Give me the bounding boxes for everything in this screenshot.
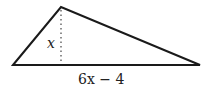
triangle	[13, 7, 200, 65]
base-label: 6x − 4	[78, 71, 124, 87]
triangle-diagram: x 6x − 4	[0, 0, 206, 88]
height-label: x	[47, 35, 55, 51]
